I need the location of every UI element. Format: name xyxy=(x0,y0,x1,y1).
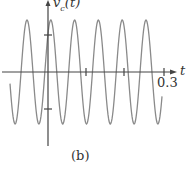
figure-caption: (b) xyxy=(71,148,89,163)
x-tick-label-0.3: 0.3 xyxy=(157,75,178,90)
y-axis-label: vc(t) xyxy=(53,0,80,13)
x-axis-label: t xyxy=(180,63,185,78)
y-label-arg: (t) xyxy=(65,0,80,10)
x-axis-arrow-icon xyxy=(170,70,177,75)
y-axis-arrow-icon xyxy=(46,0,51,6)
